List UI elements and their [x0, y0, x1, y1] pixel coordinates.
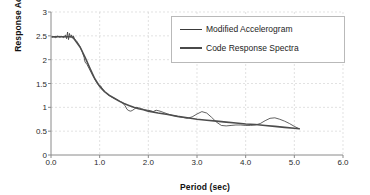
legend-item-label: Code Response Spectra: [206, 43, 299, 53]
legend: Modified Accelerogram Code Response Spec…: [171, 16, 345, 63]
response-spectra-chart: Response Acceleration (g) Period (sec) 0…: [0, 0, 370, 195]
y-tick-label: 2.5: [36, 31, 47, 40]
x-tick-label: 1.0: [94, 158, 105, 167]
y-tick-label: 1: [43, 103, 47, 112]
y-tick-label: 0.5: [36, 127, 47, 136]
y-axis-title: Response Acceleration (g): [12, 0, 24, 77]
y-tick-label: 0: [43, 151, 47, 160]
legend-item-label: Modified Accelerogram: [206, 24, 292, 34]
y-tick-label: 2: [43, 55, 47, 64]
legend-item-modified-accelerogram: Modified Accelerogram: [180, 24, 292, 34]
x-tick-label: 0.0: [45, 158, 56, 167]
y-tick-label: 3: [43, 8, 47, 17]
legend-item-code-response-spectra: Code Response Spectra: [180, 43, 299, 53]
x-tick-label: 2.0: [143, 158, 154, 167]
x-tick-label: 4.0: [240, 158, 251, 167]
y-tick-label: 1.5: [36, 79, 47, 88]
x-tick-label: 3.0: [191, 158, 202, 167]
x-tick-label: 6.0: [337, 158, 348, 167]
x-tick-label: 5.0: [289, 158, 300, 167]
legend-line-icon: [180, 47, 202, 49]
x-axis-title: Period (sec): [0, 182, 370, 192]
legend-line-icon: [180, 29, 202, 30]
